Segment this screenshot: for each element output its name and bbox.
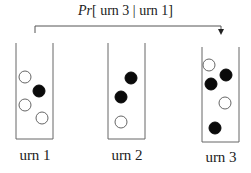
white-ball bbox=[36, 112, 48, 124]
white-ball bbox=[19, 99, 31, 111]
white-ball bbox=[203, 59, 215, 71]
white-ball bbox=[19, 71, 31, 83]
white-ball bbox=[115, 116, 127, 128]
black-ball bbox=[209, 122, 221, 134]
relation-arrow bbox=[35, 26, 224, 35]
black-ball bbox=[220, 69, 232, 81]
urn-2-label: urn 2 bbox=[97, 147, 157, 164]
arrow-head-icon bbox=[218, 29, 224, 35]
black-ball bbox=[125, 72, 137, 84]
black-ball bbox=[115, 91, 127, 103]
urn-3-label: urn 3 bbox=[191, 149, 251, 166]
urn-1-label: urn 1 bbox=[5, 147, 65, 164]
black-ball bbox=[33, 85, 45, 97]
black-ball bbox=[205, 78, 217, 90]
balls-layer bbox=[19, 59, 232, 134]
white-ball bbox=[219, 97, 231, 109]
